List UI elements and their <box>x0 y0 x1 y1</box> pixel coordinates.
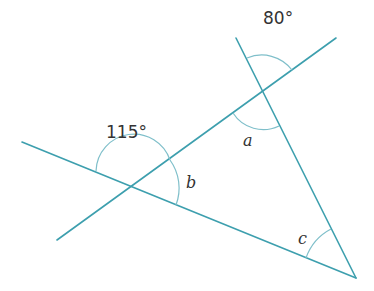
line-steep <box>236 38 356 278</box>
arc-b <box>170 160 179 205</box>
label-115: 115° <box>106 122 147 142</box>
line-rising <box>57 38 336 240</box>
arc-a <box>233 113 279 130</box>
label-b: b <box>186 173 196 192</box>
arc-c <box>306 229 331 258</box>
arc-80 <box>247 55 292 70</box>
label-c: c <box>298 229 307 248</box>
label-80: 80° <box>263 8 293 28</box>
label-a: a <box>243 131 253 150</box>
angle-diagram: 80° 115° a b c <box>0 0 374 291</box>
